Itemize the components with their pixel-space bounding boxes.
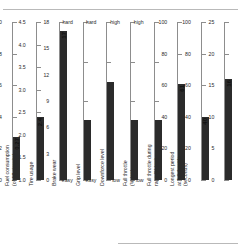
axis-major-tick: [224, 180, 229, 181]
axis-tick-label: 9: [27, 99, 49, 104]
axis-tick-label: 10: [192, 115, 214, 120]
axis-tick-label: 2.0: [4, 133, 26, 138]
axis-tick-label: high: [122, 20, 144, 25]
axis-tick-label: 20: [192, 52, 214, 57]
gauges-container: 1.00.80.60.40.200.27Fuel effect (seconds…: [0, 16, 241, 246]
gauge-value-label: 16: [226, 80, 232, 87]
axis-tick-label: hard: [74, 20, 96, 25]
axis-tick-label: 3.0: [4, 88, 26, 93]
axis-tick-label: hard: [51, 20, 73, 25]
axis-tick-label: 4.5: [4, 20, 26, 25]
axis-tick-label: 0.4: [0, 115, 2, 120]
axis-tick-label: 0.6: [0, 83, 2, 88]
axis-tick-label: 15: [192, 83, 214, 88]
axis-tick-label: 6: [27, 125, 49, 130]
top-divider-rule: [3, 9, 238, 10]
axis-tick-label: 60: [169, 83, 191, 88]
gauge-value-label: 17: [61, 32, 67, 39]
axis-tick-label: 80: [169, 52, 191, 57]
axis-tick-label: 40: [169, 115, 191, 120]
axis-tick-label: 40: [145, 115, 167, 120]
axis-tick-label: 80: [145, 52, 167, 57]
axis-tick-label: 0.8: [0, 52, 2, 57]
gauge-3: 181512963017Fuel consumption (of 18 circ…: [50, 16, 74, 246]
axis-tick-label: 100: [169, 20, 191, 25]
axis-tick-label: 4.0: [4, 43, 26, 48]
axis-tick-label: 100: [145, 20, 167, 25]
axis-tick-label: 12: [27, 73, 49, 78]
gauge-category-label: Longest period at full throttle (seconds…: [169, 152, 225, 186]
axis-tick-label: 3.5: [4, 65, 26, 70]
gauge-6: highlowGrip level: [121, 16, 145, 246]
axis-tick-label: 1.0: [0, 20, 2, 25]
axis-tick-label: 60: [145, 83, 167, 88]
axis-tick-label: 15: [27, 46, 49, 51]
axis-tick-label: 25: [192, 20, 214, 25]
gauge-bar: [60, 31, 67, 180]
gauge-bar: [225, 79, 232, 180]
gauge-5: hardeasyBrake wear: [97, 16, 121, 246]
gauge-bar-area: [74, 22, 98, 180]
axis-tick-label: high: [98, 20, 120, 25]
gauge-4: hardeasyTire usage: [74, 16, 98, 246]
axis-tick-label: 18: [27, 20, 49, 25]
gauge-chart: 1.00.80.60.40.200.27Fuel effect (seconds…: [0, 0, 241, 250]
gauge-10: 252015105016Longest period at full throt…: [215, 16, 239, 246]
axis-tick-label: 2.5: [4, 110, 26, 115]
